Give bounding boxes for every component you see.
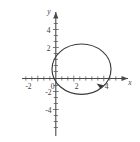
- x-tick-label-2: 2: [75, 82, 79, 91]
- y-axis-label: y: [46, 7, 51, 16]
- x-axis-label: x: [127, 78, 132, 87]
- y-tick-label-neg2: -2: [45, 88, 51, 97]
- y-axis: [53, 12, 59, 136]
- direction-arrow-icon: [97, 84, 104, 89]
- figure-container: -2 0 2 4 4 2 -2 -4 x y: [0, 0, 140, 142]
- y-axis-arrowhead: [53, 12, 58, 19]
- x-axis-arrowhead: [122, 76, 129, 81]
- y-tick-label-4: 4: [47, 26, 51, 35]
- x-tick-label-4: 4: [105, 82, 109, 91]
- x-axis: [22, 76, 128, 82]
- y-tick-label-neg4: -4: [45, 106, 51, 115]
- coordinate-plot: -2 0 2 4 4 2 -2 -4 x y: [0, 0, 140, 142]
- y-tick-label-2: 2: [47, 44, 51, 53]
- x-tick-label-neg2: -2: [25, 82, 31, 91]
- ellipse-curve: [52, 44, 111, 94]
